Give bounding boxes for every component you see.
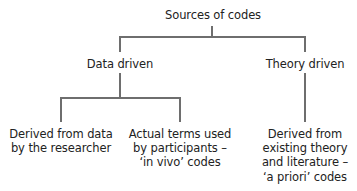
node-theory-driven: Theory driven: [266, 57, 345, 71]
leaf-in-vivo-codes: Actual terms used by participants – ‘in …: [129, 127, 232, 170]
leaf-line: ‘a priori’ codes: [262, 170, 348, 184]
connector-to-data-driven: [119, 36, 121, 52]
connector-data-stem: [119, 73, 121, 99]
connector-to-in-vivo: [179, 97, 181, 122]
connector-data-bar: [60, 97, 181, 99]
leaf-line: ‘in vivo’ codes: [129, 155, 232, 169]
connector-root-bar: [119, 36, 306, 38]
connector-to-theory-driven: [304, 36, 306, 52]
leaf-derived-from-data: Derived from data by the researcher: [9, 127, 112, 155]
node-data-driven: Data driven: [87, 57, 153, 71]
leaf-line: Derived from data: [9, 127, 112, 141]
connector-to-derived-from-data: [60, 97, 62, 122]
data-driven-label: Data driven: [87, 57, 153, 71]
root-node-sources-of-codes: Sources of codes: [165, 8, 261, 22]
leaf-line: existing theory: [262, 141, 348, 155]
leaf-line: Derived from: [262, 127, 348, 141]
theory-driven-label: Theory driven: [266, 57, 345, 71]
leaf-line: by participants –: [129, 141, 232, 155]
leaf-line: by the researcher: [9, 141, 112, 155]
connector-to-a-priori: [304, 73, 306, 122]
root-label: Sources of codes: [165, 8, 261, 22]
leaf-line: Actual terms used: [129, 127, 232, 141]
leaf-a-priori-codes: Derived from existing theory and literat…: [262, 127, 348, 184]
leaf-line: and literature –: [262, 155, 348, 169]
